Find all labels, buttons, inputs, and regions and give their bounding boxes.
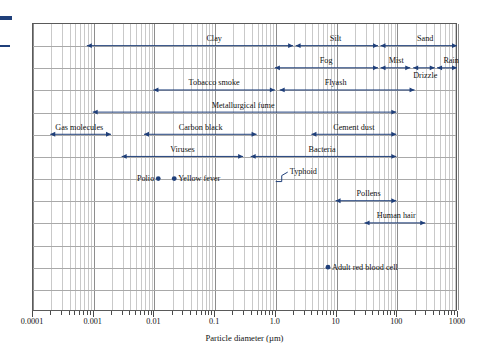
axis-tick-minor — [425, 311, 426, 315]
grid-line-horizontal — [33, 223, 456, 224]
range-label-fog: Fog — [320, 56, 333, 65]
axis-tick-minor — [144, 311, 145, 315]
axis-tick-minor — [354, 311, 355, 315]
point-label-yellow-fever: Yellow fever — [178, 174, 220, 183]
point-label-polio: Polio — [0, 174, 154, 183]
axis-tick-minor — [232, 311, 233, 315]
range-label-sand: Sand — [417, 34, 433, 43]
axis-tick-minor — [50, 311, 51, 315]
axis-tick-label: 0.0001 — [21, 317, 44, 326]
x-axis-title: Particle diameter (µm) — [0, 333, 489, 343]
axis-tick-minor — [205, 311, 206, 315]
grid-line-horizontal — [33, 135, 456, 136]
range-label-metallurgical-fume: Metallurgical fume — [212, 101, 275, 110]
axis-tick-minor — [122, 311, 123, 315]
axis-tick-minor — [365, 311, 366, 315]
axis-tick-minor — [444, 311, 445, 315]
axis-tick-minor — [265, 311, 266, 315]
axis-tick-minor — [383, 311, 384, 315]
axis-tick-minor — [322, 311, 323, 315]
grid-line-horizontal — [33, 157, 456, 158]
axis-tick-minor — [448, 311, 449, 315]
axis-tick-minor — [208, 311, 209, 315]
axis-tick-minor — [251, 311, 252, 315]
range-label-clay: Clay — [206, 34, 221, 43]
grid-line-horizontal — [33, 246, 456, 247]
axis-tick-minor — [211, 311, 212, 315]
range-label-drizzle: Drizzle — [413, 71, 437, 80]
grid-line-horizontal — [33, 46, 456, 47]
axis-tick-minor — [326, 311, 327, 315]
range-label-bacteria: Bacteria — [308, 145, 335, 154]
axis-tick-minor — [190, 311, 191, 315]
axis-tick-minor — [304, 311, 305, 315]
axis-tick-minor — [243, 311, 244, 315]
axis-tick-minor — [439, 311, 440, 315]
axis-tick-minor — [454, 311, 455, 315]
axis-tick-minor — [83, 311, 84, 315]
axis-tick-minor — [135, 311, 136, 315]
axis-tick-minor — [378, 311, 379, 315]
grid-line-horizontal — [33, 113, 456, 114]
axis-tick-minor — [333, 311, 334, 315]
axis-tick-minor — [261, 311, 262, 315]
edge-artifact-top — [0, 16, 12, 20]
axis-tick-label: 0.1 — [209, 317, 219, 326]
axis-tick-minor — [387, 311, 388, 315]
range-label-tobacco-smoke: Tobacco smoke — [189, 78, 240, 87]
edge-artifact-bottom — [0, 45, 10, 47]
axis-tick-minor — [182, 311, 183, 315]
axis-tick-minor — [201, 311, 202, 315]
grid-line-horizontal — [33, 290, 456, 291]
range-label-rain: Rain — [443, 56, 458, 65]
callout-label-typhoid: Typhoid — [290, 167, 317, 176]
grid-line-horizontal — [33, 201, 456, 202]
grid-line-major — [458, 24, 459, 310]
axis-tick-minor — [394, 311, 395, 315]
range-label-pollens: Pollens — [357, 189, 381, 198]
axis-tick-minor — [196, 311, 197, 315]
axis-tick-label: 0.001 — [83, 317, 101, 326]
range-label-carbon-black: Carbon black — [179, 123, 223, 132]
axis-tick-label: 0.01 — [146, 317, 160, 326]
axis-tick-minor — [415, 311, 416, 315]
range-label-silt: Silt — [330, 34, 341, 43]
axis-tick-minor — [129, 311, 130, 315]
axis-tick-label: 1.0 — [270, 317, 280, 326]
point-label-adult-red-blood-cell: Adult red blood cell — [332, 263, 398, 272]
axis-tick-minor — [293, 311, 294, 315]
range-label-mist: Mist — [389, 56, 404, 65]
axis-tick-minor — [451, 311, 452, 315]
range-label-flyash: Flyash — [325, 78, 347, 87]
range-label-cement-dust: Cement dust — [333, 123, 374, 132]
axis-tick-minor — [151, 311, 152, 315]
range-label-human-hair: Human hair — [377, 211, 416, 220]
axis-tick-minor — [172, 311, 173, 315]
chart-canvas: ClaySiltSandFogMistDrizzleRainTobacco sm… — [0, 0, 489, 355]
axis-tick-label: 10 — [331, 317, 339, 326]
axis-tick-minor — [330, 311, 331, 315]
axis-tick-minor — [372, 311, 373, 315]
axis-tick-minor — [269, 311, 270, 315]
axis-tick-minor — [317, 311, 318, 315]
grid-line-horizontal — [33, 68, 456, 69]
range-label-viruses: Viruses — [170, 145, 195, 154]
axis-tick-minor — [311, 311, 312, 315]
axis-tick-minor — [272, 311, 273, 315]
axis-tick-minor — [140, 311, 141, 315]
axis-tick-label: 1000 — [449, 317, 465, 326]
axis-tick-minor — [390, 311, 391, 315]
axis-tick-label: 100 — [390, 317, 402, 326]
axis-tick-minor — [257, 311, 258, 315]
axis-tick-minor — [87, 311, 88, 315]
axis-tick-minor — [79, 311, 80, 315]
range-label-gas-molecules: Gas molecules — [55, 123, 103, 132]
axis-tick-minor — [61, 311, 62, 315]
x-axis: Particle diameter (µm) 0.00010.0010.010.… — [0, 311, 489, 355]
axis-tick-minor — [148, 311, 149, 315]
grid-line-horizontal — [33, 90, 456, 91]
axis-tick-minor — [74, 311, 75, 315]
axis-tick-minor — [433, 311, 434, 315]
axis-tick-minor — [111, 311, 112, 315]
axis-tick-minor — [69, 311, 70, 315]
